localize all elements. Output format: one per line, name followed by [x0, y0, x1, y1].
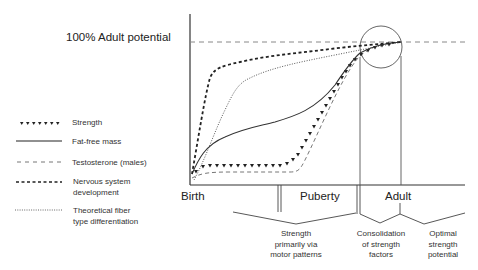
legend-label-testosterone: Testosterone (males)	[72, 157, 147, 168]
adult-potential-label: 100% Adult potential	[66, 31, 171, 43]
legend-label-strength: Strength	[72, 117, 102, 128]
legend-label-nervous-system-line2: development	[73, 187, 130, 198]
bracket-label-motor-patterns-line2: primarily via	[256, 240, 336, 251]
bracket-label-motor-patterns-line1: Strength	[256, 229, 336, 240]
bracket-motor-patterns	[233, 212, 356, 224]
convergence-circle	[360, 26, 402, 68]
bracket-label-optimal-line3: potential	[416, 250, 470, 261]
fat-free-mass-curve	[192, 42, 401, 174]
legend-label-nervous-system-line1: Nervous system	[73, 176, 130, 187]
bracket-label-optimal: Optimal strength potential	[416, 229, 470, 261]
nervous-system-curve	[192, 42, 401, 174]
legend-label-fiber-type: Theoretical fiber type differentiation	[73, 205, 138, 227]
legend-label-fiber-type-line2: type differentiation	[73, 216, 138, 227]
bracket-label-optimal-line1: Optimal	[416, 229, 470, 240]
x-label-birth: Birth	[181, 190, 205, 202]
legend-label-nervous-system: Nervous system development	[73, 176, 130, 198]
bracket-label-consolidation-line2: of strength	[346, 240, 416, 251]
bracket-label-optimal-line2: strength	[416, 240, 470, 251]
strength-markers	[194, 43, 391, 174]
x-label-puberty: Puberty	[300, 190, 340, 202]
fiber-type-curve	[194, 42, 401, 180]
bracket-label-motor-patterns-line3: motor patterns	[256, 250, 336, 261]
bracket-optimal	[400, 213, 465, 224]
bracket-label-motor-patterns: Strength primarily via motor patterns	[256, 229, 336, 261]
bracket-label-consolidation-line1: Consolidation	[346, 229, 416, 240]
bracket-label-consolidation-line3: factors	[346, 250, 416, 261]
bracket-consolidation	[360, 214, 400, 223]
x-label-adult: Adult	[385, 190, 411, 202]
legend-sample-strength	[20, 122, 60, 125]
legend-label-fiber-type-line1: Theoretical fiber	[73, 205, 138, 216]
testosterone-curve	[192, 42, 401, 178]
bracket-label-consolidation: Consolidation of strength factors	[346, 229, 416, 261]
legend-label-fat-free-mass: Fat-free mass	[72, 136, 121, 147]
